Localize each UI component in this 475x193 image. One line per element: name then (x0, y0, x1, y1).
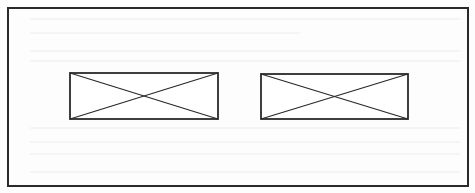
image-placeholder-left (70, 73, 218, 119)
wireframe-diagram (0, 0, 475, 193)
image-placeholder-right (261, 74, 408, 119)
diagram-canvas (0, 0, 475, 193)
